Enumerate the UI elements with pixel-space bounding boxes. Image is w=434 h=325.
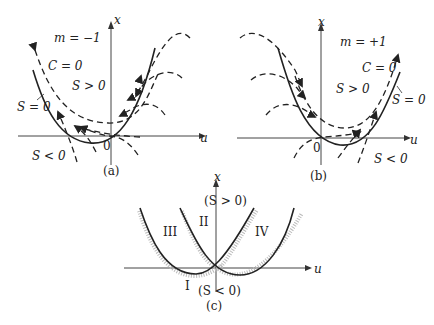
figure-canvas: m = −1 C = 0 S > 0 S = 0 S < 0 x u 0 (a)… — [0, 0, 434, 325]
trajectory — [75, 126, 96, 152]
s-positive-label: S > 0 — [336, 82, 370, 96]
x-axis-label: x — [214, 170, 221, 184]
s-positive-label: S > 0 — [72, 79, 106, 93]
s-negative-label: S < 0 — [374, 152, 408, 166]
trajectory — [139, 76, 141, 82]
trajectory — [251, 74, 305, 98]
panel-b: m = +1 C = 0 S > 0 S = 0 S < 0 x u 0 (b) — [237, 15, 426, 183]
u-axis-label: u — [200, 131, 208, 145]
x-axis-label: x — [318, 15, 325, 29]
s-negative-label: (S < 0) — [198, 284, 241, 298]
label-leader — [397, 86, 402, 93]
panel-caption: (b) — [310, 169, 327, 183]
trajectory — [240, 33, 302, 86]
panel-caption: (c) — [206, 299, 222, 313]
region-i-label: I — [185, 279, 190, 293]
u-axis-arrow-icon — [305, 265, 312, 271]
panel-caption: (a) — [103, 164, 120, 178]
m-label: m = +1 — [340, 35, 387, 49]
trajectory — [128, 72, 182, 100]
hatch-shading — [139, 211, 223, 276]
region-iii-label: III — [163, 225, 177, 239]
u-axis-label: u — [314, 262, 322, 276]
trajectory — [266, 105, 315, 118]
origin-label: 0 — [313, 141, 321, 155]
region-iv-label: IV — [255, 225, 269, 239]
m-label: m = −1 — [54, 31, 101, 45]
region-ii-label: II — [199, 215, 209, 229]
s-negative-label: S < 0 — [32, 149, 66, 163]
c-zero-label: C = 0 — [48, 59, 83, 73]
panel-a: m = −1 C = 0 S > 0 S = 0 S < 0 x u 0 (a) — [17, 13, 208, 178]
right-parabola — [180, 208, 294, 275]
panel-c: (S > 0) II III IV I (S < 0) x u (c) — [124, 170, 322, 313]
origin-label: 0 — [103, 139, 111, 153]
s-zero-label: S = 0 — [17, 100, 51, 114]
s-zero-label: S = 0 — [392, 93, 426, 107]
s-positive-label: (S > 0) — [204, 194, 247, 208]
u-axis-label: u — [410, 133, 418, 147]
hatch-shading — [219, 210, 257, 268]
x-axis-label: x — [114, 13, 121, 27]
c-zero-label: C = 0 — [362, 61, 397, 75]
